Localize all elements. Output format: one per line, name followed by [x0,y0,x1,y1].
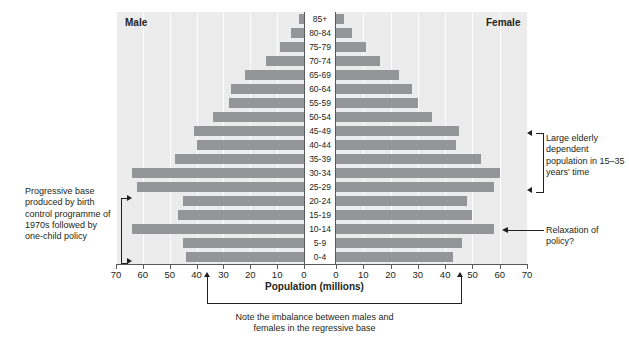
bar-male [137,182,304,192]
annotation-bottom-line-2: females in the regressive base [0,323,629,334]
bar-female [336,210,472,220]
tick-label-right-60: 60 [487,269,513,280]
female-header: Female [486,17,520,28]
age-group-label: 85+ [304,13,336,26]
age-group-label: 0-4 [304,251,336,264]
age-group-label: 20-24 [304,195,336,208]
tick-label-left-70: 70 [103,269,129,280]
population-pyramid-chart: 706050403020100010203040506070 85+80-847… [0,0,629,346]
bar-female [336,224,494,234]
annotation-regressive-base: Note the imbalance between males and fem… [0,312,629,335]
male-header: Male [125,17,147,28]
bar-male [291,28,304,38]
bar-male [197,140,304,150]
bar-male [213,112,304,122]
annotation-bottom-arrow-left [204,272,210,277]
bar-male [245,70,304,80]
tick-label-left-60: 60 [130,269,156,280]
annotation-left-arrow-top [127,195,132,201]
bar-male [280,42,304,52]
bar-female [336,112,432,122]
annotation-left-arrow-bottom [127,258,132,264]
age-group-label: 15-19 [304,209,336,222]
bar-female [336,126,459,136]
age-group-label: 65-69 [304,69,336,82]
bar-male [183,238,304,248]
bar-female [336,168,500,178]
annotation-left-bracket [121,198,128,264]
tick-label-right-70: 70 [514,269,540,280]
bar-male [194,126,304,136]
annotation-bottom-arrow-right [457,272,463,277]
bar-female [336,84,412,94]
age-group-label: 75-79 [304,41,336,54]
bar-male [183,196,304,206]
age-group-label: 30-34 [304,167,336,180]
age-group-label: 70-74 [304,55,336,68]
bar-female [336,98,418,108]
bar-male [231,84,304,94]
annotation-elderly-arrow-top [527,130,532,136]
bar-female [336,196,467,206]
tick-label-right-50: 50 [459,269,485,280]
age-group-label: 40-44 [304,139,336,152]
age-group-label: 50-54 [304,111,336,124]
annotation-elderly-arrow-bottom [527,187,532,193]
bar-male [132,224,304,234]
bar-female [336,56,380,66]
bar-male [186,252,304,262]
annotation-elderly-dependents: Large elderly dependent population in 15… [546,133,626,178]
gridline-right-70 [527,12,528,264]
age-group-label: 5-9 [304,237,336,250]
age-group-label: 25-29 [304,181,336,194]
bar-female [336,70,399,80]
gridline-right-60 [500,12,501,264]
bar-female [336,182,494,192]
bar-female [336,14,344,24]
annotation-progressive-base: Progressive base produced by birth contr… [25,186,117,242]
tick-label-left-50: 50 [157,269,183,280]
annotation-relaxation: Relaxation of policy? [546,225,626,248]
bar-female [336,28,352,38]
bar-male [229,98,304,108]
age-group-label: 60-64 [304,83,336,96]
bar-female [336,154,481,164]
age-group-label: 35-39 [304,153,336,166]
bar-female [336,252,453,262]
annotation-relaxation-leader [508,230,544,231]
annotation-bottom-line-1: Note the imbalance between males and [0,312,629,323]
bar-male [175,154,304,164]
bar-male [132,168,304,178]
age-group-label: 45-49 [304,125,336,138]
bar-female [336,238,462,248]
x-axis-line [116,264,527,265]
age-group-label: 80-84 [304,27,336,40]
annotation-elderly-bracket [536,133,544,193]
bar-male [266,56,304,66]
annotation-bottom-bracket [207,277,462,304]
bar-female [336,140,456,150]
age-group-label: 55-59 [304,97,336,110]
age-group-label: 10-14 [304,223,336,236]
bar-male [178,210,304,220]
annotation-relaxation-arrow [502,227,508,233]
bar-female [336,42,366,52]
